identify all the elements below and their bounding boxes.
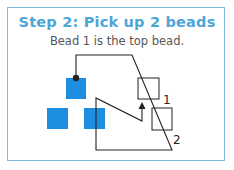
bead-bottom-middle bbox=[84, 108, 105, 129]
new-bead-1 bbox=[138, 78, 159, 99]
thread-path bbox=[76, 55, 172, 150]
thread-knot-icon bbox=[73, 75, 79, 81]
bead-label-2: 2 bbox=[173, 133, 181, 147]
bead-bottom-left bbox=[47, 108, 68, 129]
bead-label-1: 1 bbox=[163, 93, 171, 107]
arrow-up-icon bbox=[139, 102, 146, 109]
beading-diagram: 1 2 bbox=[0, 0, 234, 170]
